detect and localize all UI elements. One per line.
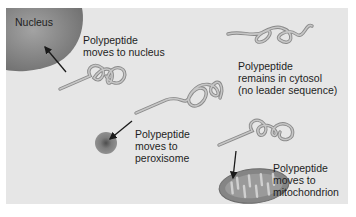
- polypeptide-cytosol: [228, 25, 312, 42]
- polypeptide-mitochondrion: [219, 120, 293, 145]
- nucleus-label: Nucleus: [15, 16, 53, 28]
- polypeptide-peroxisome: [136, 82, 222, 113]
- diagram-panel: Nucleus Polypeptide moves to nucleus Pol…: [6, 8, 348, 204]
- annotation-mitochondrion: Polypeptide moves to mitochondrion: [273, 162, 339, 198]
- polypeptide-nucleus: [60, 66, 125, 89]
- annotation-cytosol: Polypeptide remains in cytosol (no leade…: [238, 60, 337, 96]
- annotation-nucleus: Polypeptide moves to nucleus: [83, 34, 165, 58]
- annotation-peroxisome: Polypeptide moves to peroxisome: [135, 128, 190, 164]
- arrow-to-peroxisome: [110, 121, 132, 139]
